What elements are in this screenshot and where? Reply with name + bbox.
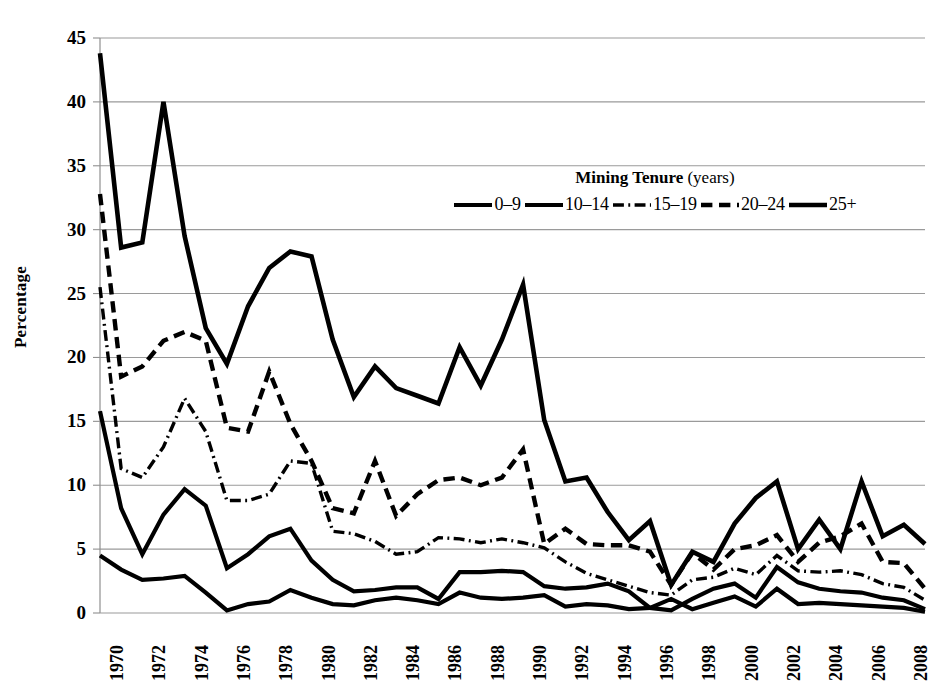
legend-label: 0–9 bbox=[494, 194, 520, 215]
legend-label: 10–14 bbox=[565, 194, 609, 215]
x-tick-label: 1988 bbox=[488, 645, 509, 681]
legend-line-swatch bbox=[700, 198, 740, 212]
x-axis-tick-labels: 1970197219741976197819801982198419861988… bbox=[0, 0, 947, 696]
legend-line-swatch bbox=[453, 198, 493, 212]
legend-entry-15-19[interactable]: 15–19 bbox=[612, 194, 697, 215]
legend-entry-10-14[interactable]: 10–14 bbox=[524, 194, 609, 215]
x-tick-label: 2006 bbox=[869, 645, 890, 681]
x-tick-label: 1986 bbox=[445, 645, 466, 681]
x-tick-label: 1980 bbox=[319, 645, 340, 681]
x-tick-label: 1984 bbox=[403, 645, 424, 681]
x-tick-label: 1996 bbox=[657, 645, 678, 681]
x-tick-label: 2002 bbox=[784, 645, 805, 681]
x-tick-label: 1990 bbox=[530, 645, 551, 681]
x-tick-label: 1992 bbox=[572, 645, 593, 681]
x-tick-label: 1976 bbox=[234, 645, 255, 681]
x-tick-label: 1978 bbox=[276, 645, 297, 681]
legend-line-swatch bbox=[524, 198, 564, 212]
legend-title: Mining Tenure (years) bbox=[405, 168, 905, 188]
x-tick-label: 2004 bbox=[826, 645, 847, 681]
legend-label: 20–24 bbox=[741, 194, 785, 215]
x-tick-label: 2008 bbox=[911, 645, 932, 681]
x-tick-label: 1998 bbox=[699, 645, 720, 681]
x-tick-label: 1974 bbox=[192, 645, 213, 681]
legend-entry-0-9[interactable]: 0–9 bbox=[453, 194, 520, 215]
x-tick-label: 1970 bbox=[107, 645, 128, 681]
legend-entry-25+[interactable]: 25+ bbox=[788, 194, 857, 215]
x-tick-label: 1994 bbox=[615, 645, 636, 681]
legend: Mining Tenure (years) 0–910–1415–1920–24… bbox=[405, 168, 905, 224]
legend-entry-20-24[interactable]: 20–24 bbox=[700, 194, 785, 215]
line-chart: Percentage 051015202530354045 1970197219… bbox=[0, 0, 947, 696]
legend-label: 15–19 bbox=[653, 194, 697, 215]
legend-line-swatch bbox=[612, 198, 652, 212]
legend-label: 25+ bbox=[829, 194, 857, 215]
legend-line-swatch bbox=[788, 198, 828, 212]
x-tick-label: 1972 bbox=[149, 645, 170, 681]
x-tick-label: 1982 bbox=[361, 645, 382, 681]
legend-title-suffix: (years) bbox=[683, 168, 734, 187]
legend-title-main: Mining Tenure bbox=[575, 168, 683, 187]
x-tick-label: 2000 bbox=[742, 645, 763, 681]
legend-items: 0–910–1415–1920–2425+ bbox=[405, 194, 905, 215]
